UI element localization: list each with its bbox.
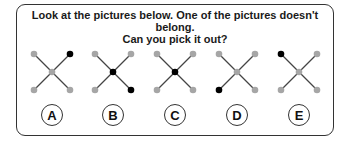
dot-top-right-icon <box>67 51 74 58</box>
option-figure-c <box>150 48 200 98</box>
dot-bottom-right-icon <box>252 87 259 94</box>
dot-top-left-icon <box>278 51 285 58</box>
dot-top-left-icon <box>216 51 223 58</box>
dot-top-right-icon <box>190 51 197 58</box>
dot-top-right-icon <box>128 51 135 58</box>
dot-top-right-icon <box>252 51 259 58</box>
dot-bottom-left-icon <box>278 87 285 94</box>
option-button-d[interactable]: D <box>226 104 248 126</box>
option-figure-d <box>212 48 262 98</box>
dot-bottom-right-icon <box>67 87 74 94</box>
option-figure-a <box>27 48 77 98</box>
option-button-c[interactable]: C <box>164 104 186 126</box>
option-button-a[interactable]: A <box>41 104 63 126</box>
dot-top-left-icon <box>31 51 38 58</box>
dot-bottom-right-icon <box>190 87 197 94</box>
option-figure-e <box>274 48 324 98</box>
dot-center-icon <box>110 69 117 76</box>
question-line-1: Look at the pictures below. One of the p… <box>16 9 334 33</box>
question-line-2: Can you pick it out? <box>16 33 334 45</box>
dot-bottom-left-icon <box>216 87 223 94</box>
dot-center-icon <box>49 69 56 76</box>
dot-top-left-icon <box>154 51 161 58</box>
dot-bottom-right-icon <box>314 87 321 94</box>
dot-bottom-left-icon <box>154 87 161 94</box>
dot-bottom-left-icon <box>92 87 99 94</box>
option-button-e[interactable]: E <box>288 104 310 126</box>
option-button-b[interactable]: B <box>102 104 124 126</box>
dot-center-icon <box>296 69 303 76</box>
question-text: Look at the pictures below. One of the p… <box>16 9 334 45</box>
dot-top-right-icon <box>314 51 321 58</box>
dot-bottom-right-icon <box>128 87 135 94</box>
dot-bottom-left-icon <box>31 87 38 94</box>
dot-center-icon <box>172 69 179 76</box>
dot-top-left-icon <box>92 51 99 58</box>
dot-center-icon <box>234 69 241 76</box>
option-figure-b <box>88 48 138 98</box>
